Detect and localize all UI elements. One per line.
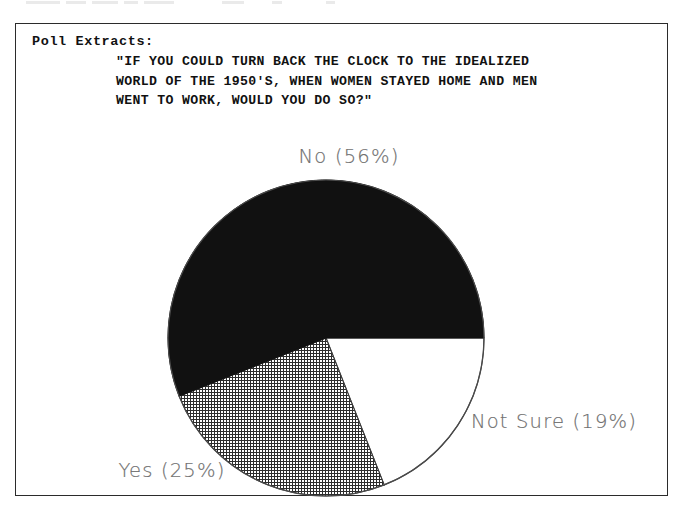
- pie-chart-svg: No (56%) Yes (25%) Not Sure (19%): [16, 119, 669, 497]
- caption-quote-line-1: "IF YOU COULD TURN BACK THE CLOCK TO THE…: [116, 52, 652, 72]
- caption-quote-line-3: WENT TO WORK, WOULD YOU DO SO?": [116, 91, 652, 111]
- pie-label-yes: Yes (25%): [118, 459, 225, 482]
- caption-heading: Poll Extracts:: [32, 32, 652, 51]
- pie-label-not-sure: Not Sure (19%): [471, 410, 637, 433]
- top-clipped-text-artifact: [26, 0, 346, 5]
- caption-quote-lines: "IF YOU COULD TURN BACK THE CLOCK TO THE…: [32, 52, 652, 111]
- pie-label-no: No (56%): [299, 145, 400, 168]
- figure-frame: Poll Extracts: "IF YOU COULD TURN BACK T…: [15, 23, 668, 496]
- pie-chart: No (56%) Yes (25%) Not Sure (19%): [16, 119, 669, 497]
- caption-quote-line-2: WORLD OF THE 1950'S, WHEN WOMEN STAYED H…: [116, 72, 652, 92]
- caption-block: Poll Extracts: "IF YOU COULD TURN BACK T…: [32, 32, 652, 111]
